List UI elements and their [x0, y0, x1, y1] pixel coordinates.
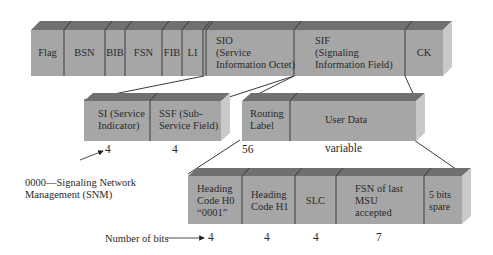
field-bsn: BSN	[64, 47, 105, 59]
field-slc: SLC	[295, 195, 336, 207]
bits-user-data: variable	[325, 142, 362, 154]
snm-arrow	[80, 151, 103, 160]
bits-h1: 4	[264, 231, 270, 243]
bits-ssf: 4	[172, 143, 178, 155]
bits-si: 4	[105, 143, 111, 155]
bits-fsn-last: 7	[376, 231, 382, 243]
number-of-bits-label: Number of bits	[105, 233, 169, 245]
field-fib: FIB	[162, 47, 182, 59]
field-li: LI	[182, 47, 203, 59]
field-heading-h0: Heading Code H0 “0001”	[197, 183, 235, 219]
field-routing-label: Routing Label	[250, 108, 284, 132]
field-flag: Flag	[31, 47, 64, 59]
bits-h0: 4	[208, 231, 214, 243]
field-ssf: SSF (Sub- Service Field)	[159, 108, 218, 132]
snm-annotation: 0000—Signaling Network Management (SNM)	[25, 177, 136, 201]
field-heading-h1: Heading Code H1	[251, 189, 289, 213]
field-spare: 5 bits spare	[429, 189, 451, 213]
field-sif: SIF (Signaling Information Field)	[315, 35, 393, 71]
field-bib: BIB	[105, 47, 125, 59]
bits-slc: 4	[313, 231, 319, 243]
field-fsn-last-msu: FSN of last MSU accepted	[355, 183, 403, 219]
field-si: SI (Service Indicator)	[98, 108, 145, 132]
field-user-data: User Data	[325, 114, 367, 126]
field-fsn: FSN	[125, 47, 162, 59]
field-sio: SIO (Service Information Octet)	[216, 35, 295, 71]
bits-routing: 56	[242, 143, 254, 155]
field-ck: CK	[405, 47, 443, 59]
